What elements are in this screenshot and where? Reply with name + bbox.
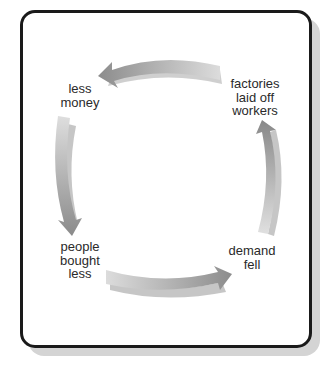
node-people-bought-less: people bought less: [55, 240, 105, 281]
node-less-money-line-2: money: [57, 96, 103, 110]
node-people-line-2: bought: [55, 254, 105, 268]
node-less-money-line-1: less: [57, 82, 103, 96]
node-demand-fell: demand fell: [224, 244, 280, 271]
arrow-factories-to-less-money-icon: [98, 60, 222, 88]
node-factories-line-2: laid off: [223, 91, 287, 105]
node-people-line-1: people: [55, 240, 105, 254]
arrow-people-to-demand-fell-icon: [106, 266, 232, 298]
arrow-less-money-to-people-icon: [55, 116, 82, 236]
arrow-demand-fell-to-factories-icon: [256, 120, 282, 236]
node-factories-laid-off-workers: factories laid off workers: [223, 77, 287, 118]
node-factories-line-3: workers: [223, 104, 287, 118]
node-factories-line-1: factories: [223, 77, 287, 91]
node-demand-line-2: fell: [224, 258, 280, 272]
node-less-money: less money: [57, 82, 103, 109]
node-people-line-3: less: [55, 267, 105, 281]
cycle-arrows: [0, 0, 332, 369]
node-demand-line-1: demand: [224, 244, 280, 258]
